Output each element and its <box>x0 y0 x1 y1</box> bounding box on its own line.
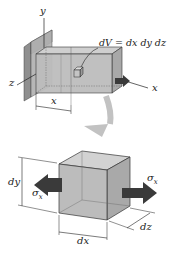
sigma-subscript: x <box>39 193 43 201</box>
x-axis-label: x <box>152 83 158 93</box>
stress-left-label: σx <box>32 188 43 201</box>
sigma-subscript: x <box>154 178 158 186</box>
dx-label: dx <box>77 236 89 246</box>
stress-right-label: σx <box>147 173 158 186</box>
sigma-symbol: σ <box>32 187 39 198</box>
y-axis-label: y <box>40 6 46 16</box>
dz-label: dz <box>140 222 152 232</box>
sigma-symbol: σ <box>147 172 154 183</box>
zoom-in-arrow-shaft <box>106 96 111 124</box>
distance-x-label: x <box>51 96 57 106</box>
differential-element-cube <box>74 67 83 77</box>
z-axis-label: z <box>9 78 14 88</box>
element-volume-label: dV = dx dy dz <box>99 38 166 48</box>
zoom-in-arrow-head <box>84 124 108 137</box>
dy-label: dy <box>8 177 20 187</box>
enlarged-cube <box>59 151 130 220</box>
